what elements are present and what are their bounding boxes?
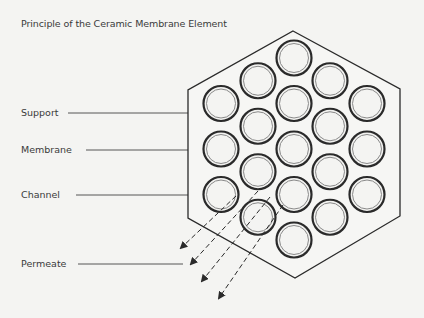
channel-membrane-layer	[280, 44, 309, 73]
channel	[313, 63, 348, 98]
channel	[277, 86, 312, 121]
channel-membrane-layer	[244, 112, 273, 141]
channel-membrane-layer	[353, 180, 382, 209]
channel-membrane-layer	[316, 112, 345, 141]
channel-membrane-layer	[316, 203, 345, 232]
membrane-element-diagram	[0, 0, 424, 318]
channel-membrane-layer	[316, 66, 345, 95]
channel	[350, 86, 385, 121]
channel	[313, 154, 348, 189]
channel	[204, 177, 239, 212]
channel-membrane-layer	[244, 66, 273, 95]
channel-membrane-layer	[280, 89, 309, 118]
channel-membrane-layer	[316, 157, 345, 186]
channel-membrane-layer	[353, 89, 382, 118]
channel-membrane-layer	[244, 157, 273, 186]
channel	[277, 41, 312, 76]
channel	[277, 132, 312, 167]
channel-membrane-layer	[280, 226, 309, 255]
channel	[204, 132, 239, 167]
channel	[204, 86, 239, 121]
channel-membrane-layer	[207, 89, 236, 118]
channel	[350, 177, 385, 212]
channel-membrane-layer	[280, 135, 309, 164]
channel	[313, 109, 348, 144]
channel-membrane-layer	[353, 135, 382, 164]
channel	[241, 109, 276, 144]
channel	[277, 223, 312, 258]
channel-membrane-layer	[207, 180, 236, 209]
channel-membrane-layer	[207, 135, 236, 164]
channel	[350, 132, 385, 167]
channel	[313, 200, 348, 235]
channel	[241, 63, 276, 98]
channel	[241, 154, 276, 189]
channel-membrane-layer	[280, 180, 309, 209]
